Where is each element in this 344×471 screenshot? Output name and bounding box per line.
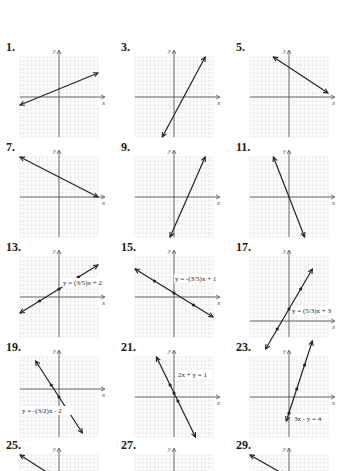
coordinate-plane: y bbox=[0, 0, 344, 471]
svg-text:y: y bbox=[282, 445, 287, 453]
